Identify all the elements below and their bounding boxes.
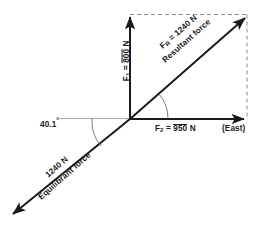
label-f1: F1 = 800 N (122, 40, 132, 81)
label-east-direction: (East) (222, 124, 245, 133)
label-angle-value: 40.1 (40, 120, 56, 129)
force-vector-diagram: F1 = 800 N F2 = 950 N (East) FR = 1240 N… (0, 0, 260, 228)
label-f2-value: 950 (173, 124, 187, 134)
label-f1-symbol: F (122, 76, 131, 81)
label-f1-value: 800 (122, 49, 132, 63)
label-f1-unit: N (122, 40, 131, 46)
label-f1-equals: = (122, 65, 131, 70)
label-angle: 40.1° (40, 117, 59, 129)
label-f2: F2 = 950 N (155, 124, 196, 134)
angle-arc-equilibrant (92, 119, 101, 146)
label-f2-unit: N (190, 124, 196, 133)
label-f2-equals: = (166, 124, 171, 133)
label-angle-degree-symbol: ° (56, 117, 59, 124)
angle-arc-resultant (159, 94, 168, 119)
label-fr-unit: N (188, 13, 198, 24)
label-f2-subscript: 2 (160, 126, 164, 133)
label-f1-subscript: 1 (124, 72, 131, 76)
